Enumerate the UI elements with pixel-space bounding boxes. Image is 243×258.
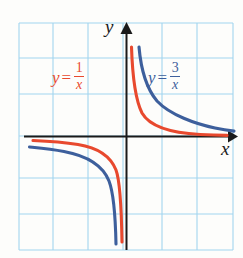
equation-red-lhs: y [52, 69, 60, 86]
equation-label-red: y = 1 x [52, 62, 84, 93]
equation-red-equals: = [62, 69, 72, 86]
equation-blue-denominator: x [171, 77, 179, 92]
y-axis-label: y [105, 17, 113, 36]
equation-blue-numerator: 3 [171, 61, 180, 76]
x-axis-label: x [221, 139, 229, 158]
equation-red-fraction: 1 x [74, 61, 84, 92]
curve-blue-branch-quadrant-3 [30, 147, 117, 244]
equation-blue-lhs: y [148, 69, 156, 86]
graph-figure: y = 1 x y = 3 x y x [0, 0, 243, 258]
equation-red-numerator: 1 [75, 61, 84, 76]
equation-label-blue: y = 3 x [148, 62, 180, 93]
y-axis-arrowhead [121, 22, 133, 34]
equation-blue-fraction: 3 x [170, 61, 180, 92]
equation-red-denominator: x [75, 77, 83, 92]
equation-blue-equals: = [158, 69, 168, 86]
coordinate-plane [0, 0, 243, 258]
